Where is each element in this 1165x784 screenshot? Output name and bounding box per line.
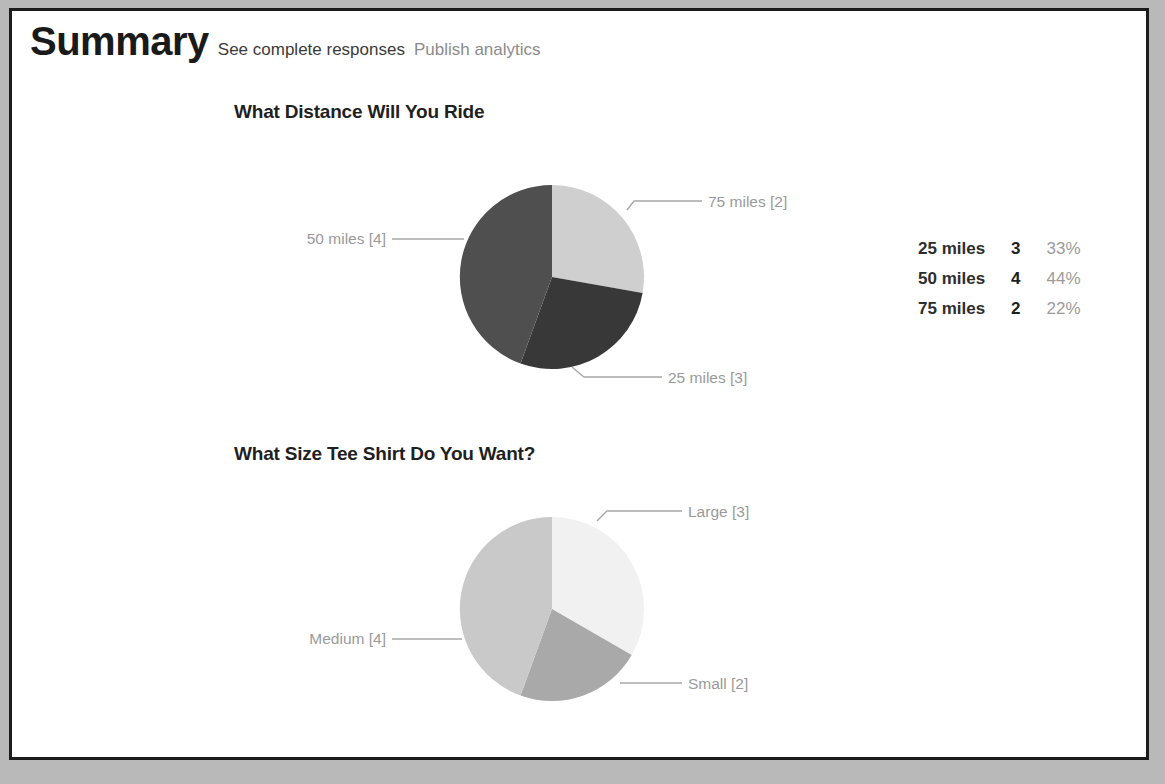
pie-chart-tee-shirt-svg: Large [3] Medium [4] Small [2]: [242, 479, 842, 739]
page-header: Summary See complete responses Publish a…: [30, 21, 541, 69]
leader-line-large: [597, 511, 682, 521]
summary-page: Summary See complete responses Publish a…: [9, 8, 1149, 760]
legend-percent: 44%: [1047, 269, 1081, 299]
chart-section-distance: What Distance Will You Ride 75 miles [2]…: [12, 101, 1146, 421]
legend-label: 25 miles: [918, 239, 1011, 269]
leader-line-25-miles: [572, 367, 662, 377]
publish-analytics-link[interactable]: Publish analytics: [414, 41, 541, 58]
pie-slice-75-miles: [552, 185, 644, 293]
pie-chart-distance: 75 miles [2] 50 miles [4] 25 miles [3]: [242, 137, 842, 407]
chart-title: What Size Tee Shirt Do You Want?: [234, 443, 535, 465]
legend-label: 50 miles: [918, 269, 1011, 299]
pie-label-large: Large [3]: [688, 503, 749, 520]
pie-label-25-miles: 25 miles [3]: [668, 369, 747, 386]
page-title: Summary: [30, 21, 209, 61]
legend-percent: 33%: [1047, 239, 1081, 269]
pie-label-medium: Medium [4]: [309, 630, 386, 647]
table-row: 50 miles 4 44%: [918, 269, 1081, 299]
legend-count: 2: [1011, 299, 1046, 329]
legend-table-distance: 25 miles 3 33% 50 miles 4 44% 75 miles 2…: [918, 239, 1081, 329]
pie-chart-tee-shirt: Large [3] Medium [4] Small [2]: [242, 479, 842, 749]
legend-label: 75 miles: [918, 299, 1011, 329]
legend-count: 4: [1011, 269, 1046, 299]
table-row: 25 miles 3 33%: [918, 239, 1081, 269]
pie-label-50-miles: 50 miles [4]: [307, 230, 386, 247]
leader-line-75-miles: [627, 201, 702, 210]
see-complete-responses-link[interactable]: See complete responses: [218, 41, 405, 58]
pie-label-small: Small [2]: [688, 675, 748, 692]
pie-chart-distance-svg: 75 miles [2] 50 miles [4] 25 miles [3]: [242, 137, 842, 407]
chart-section-tee-shirt: What Size Tee Shirt Do You Want? Large […: [12, 443, 1146, 743]
pie-label-75-miles: 75 miles [2]: [708, 193, 787, 210]
legend-count: 3: [1011, 239, 1046, 269]
table-row: 75 miles 2 22%: [918, 299, 1081, 329]
chart-title: What Distance Will You Ride: [234, 101, 484, 123]
legend-percent: 22%: [1047, 299, 1081, 329]
